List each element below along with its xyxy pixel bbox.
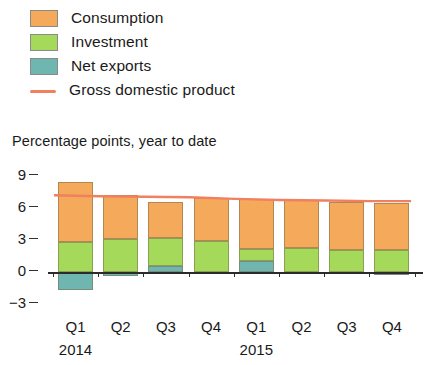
bar-segment xyxy=(58,182,93,242)
x-label-1: Q2 xyxy=(98,318,143,335)
x-tickmark xyxy=(143,272,144,277)
zero-axis-line xyxy=(48,272,423,274)
y-tick-6: 6 xyxy=(4,198,38,215)
x-tickmark xyxy=(98,272,99,277)
y-tick--3: −3 xyxy=(4,294,38,311)
bar-segment xyxy=(148,202,183,238)
bar-segment xyxy=(194,198,229,241)
y-tick-3: 3 xyxy=(4,230,38,247)
x-tickmark xyxy=(189,272,190,277)
bar-segment xyxy=(284,248,319,272)
bar-segment xyxy=(103,239,138,272)
x-tickmark xyxy=(234,272,235,277)
bar-segment xyxy=(103,195,138,239)
bar-segment xyxy=(194,241,229,272)
bar-segment xyxy=(329,202,364,250)
bar-segment xyxy=(239,249,274,262)
x-tickmark xyxy=(279,272,280,277)
bar-segment xyxy=(374,250,409,272)
x-label-7: Q4 xyxy=(369,318,414,335)
bar-segment xyxy=(58,272,93,290)
x-label-2: Q3 xyxy=(143,318,188,335)
bar-segment xyxy=(239,199,274,248)
x-label-3: Q4 xyxy=(189,318,234,335)
x-label-0: Q1 xyxy=(53,318,98,335)
bar-segment xyxy=(329,250,364,272)
x-tickmark xyxy=(324,272,325,277)
bar-segment xyxy=(148,238,183,266)
year-label-2015: 2015 xyxy=(233,341,280,358)
x-label-5: Q2 xyxy=(279,318,324,335)
x-label-4: Q1 xyxy=(234,318,279,335)
x-label-6: Q3 xyxy=(324,318,369,335)
x-tickmark xyxy=(53,272,54,277)
bar-segment xyxy=(284,200,319,248)
x-tickmark xyxy=(415,272,416,277)
x-tickmark xyxy=(369,272,370,277)
chart-plot-area: 9630−3 Q1Q2Q3Q4Q1Q2Q3Q4 20142015 xyxy=(0,0,427,365)
y-tick-0: 0 xyxy=(4,262,38,279)
y-tick-9: 9 xyxy=(4,166,38,183)
bar-segment xyxy=(374,203,409,250)
bar-segment xyxy=(239,261,274,272)
bar-segment xyxy=(58,242,93,272)
year-label-2014: 2014 xyxy=(52,341,99,358)
